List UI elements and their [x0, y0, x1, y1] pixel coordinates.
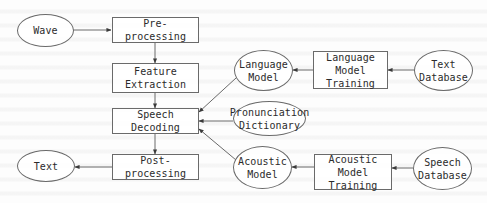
- node-feature-extraction-label: Feature Extraction: [125, 65, 186, 91]
- node-text-label: Text: [34, 160, 58, 173]
- node-acoustic-model-training: Acoustic Model Training: [314, 154, 392, 190]
- node-acoustic-model: Acoustic Model: [233, 146, 292, 189]
- node-acoustic-model-label: Acoustic Model: [238, 155, 287, 181]
- speech-recognition-diagram: Wave Pre-processing Feature Extraction S…: [0, 0, 487, 203]
- node-wave: Wave: [17, 14, 74, 47]
- node-pronunciation-dictionary: Pronunciation Dictionary: [233, 101, 306, 136]
- node-speech-decoding-label: Speech Decoding: [113, 108, 198, 134]
- node-preprocessing-label: Pre-processing: [113, 17, 198, 43]
- node-acoustic-model-training-label: Acoustic Model Training: [315, 153, 391, 192]
- node-text: Text: [17, 150, 75, 182]
- node-postprocessing-label: Post-processing: [113, 154, 198, 180]
- node-speech-decoding: Speech Decoding: [112, 108, 199, 134]
- node-language-model: Language Model: [234, 50, 293, 91]
- node-preprocessing: Pre-processing: [112, 17, 199, 43]
- node-language-model-training: Language Model Training: [313, 51, 388, 89]
- node-postprocessing: Post-processing: [112, 154, 199, 180]
- node-feature-extraction: Feature Extraction: [112, 63, 199, 93]
- edge-acoustic-model-speech-decoding: [199, 129, 236, 160]
- node-language-model-label: Language Model: [239, 58, 288, 84]
- node-language-model-training-label: Language Model Training: [314, 51, 387, 90]
- node-pronunciation-dictionary-label: Pronunciation Dictionary: [230, 106, 310, 132]
- node-speech-database: Speech Database: [413, 147, 472, 190]
- node-wave-label: Wave: [33, 24, 57, 37]
- node-text-database: Text Database: [414, 50, 473, 91]
- node-speech-database-label: Speech Database: [418, 156, 467, 182]
- node-text-database-label: Text Database: [419, 58, 468, 84]
